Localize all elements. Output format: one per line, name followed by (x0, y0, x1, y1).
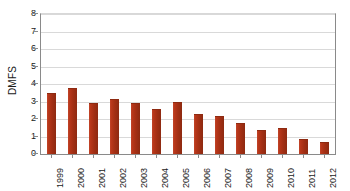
bar-slot (104, 14, 125, 154)
bar-slot (188, 14, 209, 154)
x-tick-label-text: 2003 (139, 168, 149, 188)
x-tick-label-text: 2006 (202, 168, 212, 188)
y-tickmark (33, 118, 38, 119)
bar[interactable] (257, 130, 266, 155)
y-tickmark (33, 101, 38, 102)
x-tick-label-text: 2010 (286, 168, 296, 188)
bar-slot (209, 14, 230, 154)
y-tickmark (33, 13, 38, 14)
bar-slot (167, 14, 188, 154)
x-tick-label-text: 2000 (76, 168, 86, 188)
y-tickmark (33, 136, 38, 137)
x-tick-label-text: 2008 (244, 168, 254, 188)
y-tickmark (33, 66, 38, 67)
y-tickmark (33, 153, 38, 154)
x-tick-label-text: 1999 (55, 168, 65, 188)
x-tick-label-text: 2009 (265, 168, 275, 188)
y-tickmark (33, 83, 38, 84)
bar-slot (230, 14, 251, 154)
x-axis-tick-labels: 1999200020012002200320042005200620072008… (40, 158, 334, 191)
y-tickmark (33, 31, 38, 32)
bar[interactable] (194, 114, 203, 154)
bar-slot (83, 14, 104, 154)
x-tick-label-text: 2002 (118, 168, 128, 188)
bar[interactable] (215, 116, 224, 155)
x-tick-label-text: 2004 (160, 168, 170, 188)
plot-area (40, 13, 336, 155)
x-tick-label-text: 2005 (181, 168, 191, 188)
bar-slot (251, 14, 272, 154)
bar-slot (41, 14, 62, 154)
bar[interactable] (278, 128, 287, 154)
x-tick-label-text: 2001 (97, 168, 107, 188)
x-tick-label-text: 2011 (307, 169, 317, 188)
bar[interactable] (152, 109, 161, 154)
bar[interactable] (299, 139, 308, 154)
bar[interactable] (110, 99, 119, 154)
y-axis-title-label: DMFS (8, 65, 19, 94)
bar-slot (314, 14, 335, 154)
bar-slot (125, 14, 146, 154)
bar-chart: DMFS 012345678 1999200020012002200320042… (0, 0, 350, 191)
bar[interactable] (68, 88, 77, 155)
bar[interactable] (89, 103, 98, 154)
bar-slot (146, 14, 167, 154)
bar-slot (272, 14, 293, 154)
bar[interactable] (47, 93, 56, 154)
x-tick-label-text: 2012 (328, 168, 338, 188)
bar-slot (293, 14, 314, 154)
bar[interactable] (320, 142, 329, 154)
y-tickmark (33, 48, 38, 49)
bar-slot (62, 14, 83, 154)
bar[interactable] (173, 102, 182, 155)
x-tick-label-text: 2007 (223, 168, 233, 188)
bar[interactable] (236, 123, 245, 155)
bar[interactable] (131, 103, 140, 154)
bars-layer (41, 14, 335, 154)
